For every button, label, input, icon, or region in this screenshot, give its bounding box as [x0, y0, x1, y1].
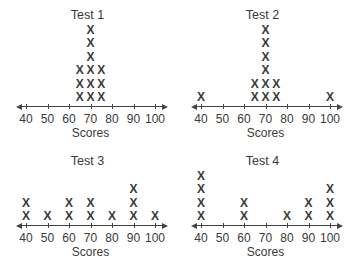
axis-tick — [244, 223, 245, 228]
tick-label: 100 — [315, 231, 345, 245]
x-mark: X — [84, 51, 98, 63]
x-mark: X — [94, 91, 108, 103]
axis-tick — [223, 104, 224, 109]
x-mark: X — [280, 210, 294, 222]
axis-tick — [266, 223, 267, 228]
axis-tick — [26, 104, 27, 109]
axis-tick — [155, 104, 156, 109]
x-mark: X — [259, 24, 273, 36]
x-mark: X — [194, 197, 208, 209]
x-mark: X — [194, 91, 208, 103]
x-axis-label: Scores — [236, 245, 296, 259]
axis-tick — [330, 223, 331, 228]
x-mark: X — [84, 210, 98, 222]
axis-tick — [201, 223, 202, 228]
x-mark: X — [323, 91, 337, 103]
axis-tick — [134, 223, 135, 228]
axis-tick — [309, 104, 310, 109]
x-mark: X — [194, 183, 208, 195]
x-mark: X — [259, 51, 273, 63]
tick-label: 100 — [140, 112, 170, 126]
x-mark: X — [237, 210, 251, 222]
x-mark: X — [259, 64, 273, 76]
x-mark: X — [19, 210, 33, 222]
axis-tick — [91, 104, 92, 109]
axis-tick — [69, 104, 70, 109]
axis-tick — [330, 104, 331, 109]
x-mark: X — [94, 64, 108, 76]
x-mark: X — [323, 183, 337, 195]
chart-title: Test 2 — [175, 8, 350, 22]
x-mark: X — [41, 210, 55, 222]
left-arrow-icon — [16, 104, 22, 110]
axis-tick — [266, 104, 267, 109]
right-arrow-icon — [337, 104, 343, 110]
number-line — [20, 106, 164, 107]
right-arrow-icon — [162, 223, 168, 229]
axis-tick — [112, 104, 113, 109]
axis-tick — [69, 223, 70, 228]
tick-label: 100 — [140, 231, 170, 245]
axis-tick — [309, 223, 310, 228]
x-mark: X — [302, 210, 316, 222]
axis-tick — [91, 223, 92, 228]
chart-title: Test 3 — [0, 154, 175, 168]
dot-plot-2: Test 2405060708090100ScoresXXXXXXXXXXXX — [175, 0, 350, 136]
right-arrow-icon — [162, 104, 168, 110]
number-line — [195, 106, 339, 107]
axis-tick — [223, 223, 224, 228]
chart-title: Test 1 — [0, 8, 175, 22]
axis-tick — [26, 223, 27, 228]
axis-tick — [201, 104, 202, 109]
right-arrow-icon — [337, 223, 343, 229]
x-mark: X — [127, 197, 141, 209]
x-mark: X — [84, 37, 98, 49]
x-mark: X — [269, 91, 283, 103]
x-mark: X — [269, 78, 283, 90]
axis-tick — [48, 104, 49, 109]
left-arrow-icon — [191, 223, 197, 229]
x-mark: X — [148, 210, 162, 222]
left-arrow-icon — [191, 104, 197, 110]
x-mark: X — [194, 210, 208, 222]
x-mark: X — [94, 78, 108, 90]
tick-label: 100 — [315, 112, 345, 126]
x-mark: X — [323, 210, 337, 222]
x-mark: X — [259, 37, 273, 49]
x-mark: X — [127, 183, 141, 195]
x-mark: X — [237, 197, 251, 209]
axis-tick — [287, 104, 288, 109]
x-mark: X — [19, 197, 33, 209]
left-arrow-icon — [16, 223, 22, 229]
x-mark: X — [127, 210, 141, 222]
x-mark: X — [194, 170, 208, 182]
dot-plot-3: Test 3405060708090100ScoresXXXXXXXXXXXX — [0, 136, 175, 272]
x-mark: X — [302, 197, 316, 209]
x-mark: X — [84, 24, 98, 36]
dot-plot-4: Test 4405060708090100ScoresXXXXXXXXXXXX — [175, 136, 350, 272]
number-line — [20, 225, 164, 226]
axis-tick — [134, 104, 135, 109]
chart-title: Test 4 — [175, 154, 350, 168]
number-line — [195, 225, 339, 226]
dot-plot-1: Test 1405060708090100ScoresXXXXXXXXXXXX — [0, 0, 175, 136]
x-mark: X — [323, 197, 337, 209]
x-mark: X — [62, 197, 76, 209]
x-mark: X — [84, 197, 98, 209]
x-axis-label: Scores — [61, 245, 121, 259]
axis-tick — [48, 223, 49, 228]
x-mark: X — [62, 210, 76, 222]
x-mark: X — [105, 210, 119, 222]
axis-tick — [244, 104, 245, 109]
axis-tick — [287, 223, 288, 228]
axis-tick — [112, 223, 113, 228]
axis-tick — [155, 223, 156, 228]
